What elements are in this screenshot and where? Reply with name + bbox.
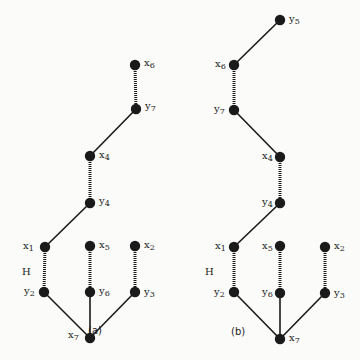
node-y3 [130, 287, 140, 297]
node-label-y7: y7 [145, 101, 156, 113]
node-label-x5: x5 [99, 240, 110, 252]
node-x4 [85, 151, 95, 161]
node-y6 [85, 287, 95, 297]
edge-solid-y4-x1 [234, 203, 280, 247]
node-y2 [39, 287, 49, 297]
edge-dotted-x6-y7 [135, 65, 136, 109]
node-label-y6: y6 [99, 286, 110, 298]
edge-solid-y5-x6 [234, 20, 280, 65]
node-x2 [130, 241, 140, 251]
node-y4 [275, 198, 285, 208]
node-label-y4: y4 [262, 197, 273, 209]
node-label-x2: x2 [334, 241, 345, 253]
graph-caption: (a) [88, 325, 102, 336]
node-x6 [130, 60, 140, 70]
node-x1 [229, 242, 239, 252]
node-x7 [275, 334, 285, 344]
edge-dotted-x1-y2 [44, 247, 45, 292]
node-label-x4: x4 [262, 151, 273, 163]
node-label-x7: x7 [68, 330, 79, 342]
node-x4 [275, 152, 285, 162]
subgraph-h-label: H [205, 266, 214, 277]
node-label-y3: y3 [144, 287, 155, 299]
node-label-y2: y2 [214, 287, 225, 299]
node-label-x1: x1 [23, 241, 34, 253]
graph-caption: (b) [231, 326, 245, 337]
node-label-x7: x7 [289, 333, 300, 345]
node-label-y6: y6 [262, 287, 273, 299]
edge-solid-y4-x1 [45, 203, 90, 247]
diagram-canvas: x6y7x4y4x1x5x2y2y6y3x7(a)Hy5x6y7x4y4x1x5… [0, 0, 360, 360]
node-label-x2: x2 [144, 240, 155, 252]
node-y6 [275, 288, 285, 298]
node-y7 [131, 104, 141, 114]
node-y3 [320, 288, 330, 298]
edge-solid-y7-x4 [90, 109, 136, 156]
subgraph-h-label: H [22, 266, 31, 277]
graph-a [39, 60, 141, 343]
graph-b [229, 15, 330, 344]
node-label-x5: x5 [262, 241, 273, 253]
node-label-x4: x4 [99, 150, 110, 162]
node-x1 [40, 242, 50, 252]
node-label-y4: y4 [99, 196, 110, 208]
node-label-x6: x6 [215, 59, 226, 71]
node-label-x6: x6 [144, 58, 155, 70]
edge-solid-y3-x7 [280, 293, 325, 339]
node-x5 [275, 241, 285, 251]
edge-solid-y7-x4 [234, 110, 280, 157]
node-label-x1: x1 [215, 241, 226, 253]
edge-solid-y2-x7 [44, 292, 90, 338]
node-y5 [275, 15, 285, 25]
node-x6 [229, 60, 239, 70]
node-x5 [85, 241, 95, 251]
node-x2 [320, 242, 330, 252]
node-y2 [229, 287, 239, 297]
node-label-y7: y7 [214, 104, 225, 116]
node-label-y2: y2 [24, 286, 35, 298]
edges-layer [0, 0, 360, 360]
node-y7 [229, 105, 239, 115]
node-y4 [85, 198, 95, 208]
node-label-y3: y3 [334, 288, 345, 300]
node-label-y5: y5 [289, 14, 300, 26]
